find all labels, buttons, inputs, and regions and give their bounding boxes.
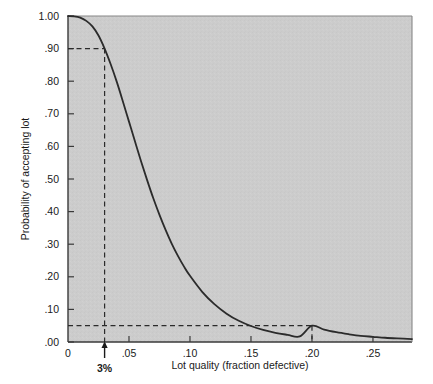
x-tick-label: .25 [366,347,381,359]
x-tick-label: .05 [122,347,137,359]
y-tick-label: .70 [44,107,59,119]
y-tick-label: .50 [44,173,59,185]
plot-area-background [68,16,412,342]
chart-canvas: .00.10.20.30.40.50.60.70.80.901.00 0.05.… [0,0,433,384]
x-axis-title: Lot quality (fraction defective) [171,359,308,371]
y-tick-label: 1.00 [39,10,60,22]
x-tick-label: .15 [244,347,259,359]
y-tick-label: .00 [44,336,59,348]
x-tick-label: 0 [65,347,71,359]
y-tick-label: .90 [44,42,59,54]
y-tick-label: .10 [44,303,59,315]
y-tick-label: .30 [44,238,59,250]
y-tick-label: .60 [44,140,59,152]
x-tick-label: .20 [305,347,320,359]
three-percent-label: 3% [97,362,113,374]
three-percent-arrow-icon [101,342,107,359]
x-tick-label: .10 [183,347,198,359]
y-tick-label: .80 [44,75,59,87]
y-axis-title: Probability of accepting lot [19,118,31,241]
y-tick-label: .40 [44,205,59,217]
oc-curve-chart: .00.10.20.30.40.50.60.70.80.901.00 0.05.… [0,0,433,384]
y-tick-label: .20 [44,270,59,282]
